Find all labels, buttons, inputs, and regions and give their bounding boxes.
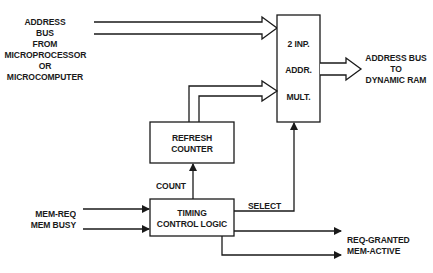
refresh-bus-arrow [189, 81, 277, 122]
label-line: OR [5, 60, 86, 71]
count-label: COUNT [156, 180, 186, 191]
mem-busy-label: MEM BUSY [8, 219, 76, 230]
mem-active-arrow [222, 236, 341, 255]
label-line: DYNAMIC RAM [364, 74, 429, 85]
multiplexer-label-1: 2 INP. [279, 38, 318, 49]
refresh-counter-label: REFRESH COUNTER [154, 132, 230, 154]
label-line: TO [364, 63, 429, 74]
select-label: SELECT [248, 200, 281, 211]
mem-active-label: MEM-ACTIVE [347, 245, 400, 256]
label-line: COUNTER [154, 143, 230, 154]
label-line: TIMING [154, 207, 230, 218]
address-bus-output-arrow [320, 58, 361, 80]
label-line: MICROCOMPUTER [5, 71, 86, 82]
select-arrow [234, 123, 294, 211]
label-line: ADDRESS BUS [364, 52, 429, 63]
label-line: FROM [5, 38, 86, 49]
label-line: REFRESH [154, 132, 230, 143]
address-bus-input-arrow [94, 17, 277, 39]
mem-req-label: MEM-REQ [8, 208, 76, 219]
label-line: BUS [5, 27, 86, 38]
req-granted-label: REQ-GRANTED [347, 234, 410, 245]
timing-control-label: TIMING CONTROL LOGIC [154, 207, 230, 229]
multiplexer-label-3: MULT. [279, 91, 318, 102]
label-line: MICROPROCESSOR [5, 49, 86, 60]
address-bus-to-label: ADDRESS BUS TO DYNAMIC RAM [364, 52, 429, 85]
multiplexer-label-2: ADDR. [279, 64, 318, 75]
label-line: ADDRESS [5, 16, 86, 27]
label-line: CONTROL LOGIC [154, 218, 230, 229]
address-bus-from-label: ADDRESS BUS FROM MICROPROCESSOR OR MICRO… [5, 16, 86, 82]
